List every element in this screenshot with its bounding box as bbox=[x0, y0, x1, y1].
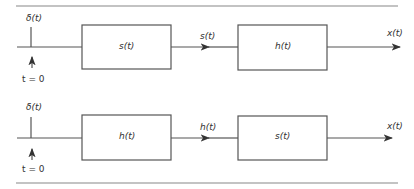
intermediate-label-1: s(t) bbox=[200, 31, 215, 41]
block-1a-label: s(t) bbox=[119, 41, 134, 51]
intermediate-label-2: h(t) bbox=[200, 122, 216, 132]
input-label-2: δ(t) bbox=[26, 102, 42, 112]
output-label-1: x(t) bbox=[387, 28, 403, 38]
block-1b-label: h(t) bbox=[275, 41, 291, 51]
output-label-2: x(t) bbox=[387, 121, 403, 131]
time-label-1: t = 0 bbox=[22, 74, 45, 84]
block-2a-label: h(t) bbox=[119, 131, 135, 141]
time-label-2: t = 0 bbox=[22, 164, 45, 174]
block-2b-label: s(t) bbox=[275, 131, 290, 141]
diagram-canvas bbox=[0, 0, 414, 189]
input-label-1: δ(t) bbox=[26, 13, 42, 23]
